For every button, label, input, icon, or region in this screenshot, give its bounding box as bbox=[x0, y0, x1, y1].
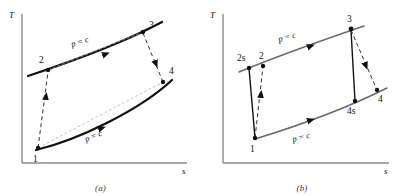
state-label-2-a: 2 bbox=[39, 55, 44, 65]
state-label-3-a: 3 bbox=[149, 20, 154, 30]
state-label-2s-b: 2s bbox=[237, 53, 246, 63]
isobar-high-pressure-b bbox=[239, 26, 364, 72]
caption-a: (a) bbox=[0, 183, 201, 193]
state-point-2-b bbox=[261, 64, 265, 68]
state-point-4-b bbox=[375, 88, 379, 92]
process-1-2s-b bbox=[249, 68, 255, 138]
flow-arrow-upper-a bbox=[90, 54, 106, 60]
state-point-3-b bbox=[349, 27, 354, 32]
caption-b: (b) bbox=[201, 183, 403, 193]
panel-b: T s bbox=[201, 0, 403, 196]
x-axis-label-b: s bbox=[384, 166, 388, 176]
state-label-4s-b: 4s bbox=[347, 106, 356, 116]
state-label-1-a: 1 bbox=[33, 154, 38, 164]
state-label-4-a: 4 bbox=[169, 66, 174, 76]
process-3-4s-b bbox=[351, 30, 355, 101]
state-point-4s-b bbox=[353, 99, 357, 103]
isobar-label-lower-b: p = c bbox=[290, 130, 311, 144]
state-label-4-b: 4 bbox=[378, 94, 383, 104]
process-3-4-b bbox=[351, 30, 377, 90]
panel-divider bbox=[201, 6, 202, 184]
state-label-3-b: 3 bbox=[347, 14, 352, 24]
process-1-2-a bbox=[38, 72, 48, 148]
panel-a: T s 1 2 bbox=[0, 0, 201, 196]
isobar-low-pressure-a bbox=[36, 80, 172, 150]
isobar-label-upper-a: p = c bbox=[69, 34, 90, 49]
state-point-2s-b bbox=[247, 66, 251, 70]
state-point-1-b bbox=[253, 136, 257, 140]
isobar-low-pressure-b bbox=[255, 88, 387, 139]
process-3-4-a bbox=[143, 33, 163, 82]
process-1-2-b bbox=[255, 66, 263, 138]
ts-diagram-a: T s 1 2 bbox=[0, 0, 201, 196]
figure-root: T s 1 2 bbox=[0, 0, 403, 196]
state-point-4-a bbox=[161, 80, 165, 84]
y-axis-label-a: T bbox=[9, 10, 15, 20]
y-axis-label-b: T bbox=[210, 10, 216, 20]
x-axis-label-a: s bbox=[182, 166, 186, 176]
state-point-1-a bbox=[36, 146, 40, 150]
state-label-1-b: 1 bbox=[250, 144, 255, 154]
isobar-label-upper-b: p = c bbox=[276, 30, 297, 45]
state-point-2-a bbox=[46, 68, 50, 72]
ts-diagram-b: T s bbox=[201, 0, 403, 196]
isobar-label-lower-a: p = c bbox=[82, 128, 104, 144]
state-point-3-a bbox=[141, 30, 145, 34]
guide-2-3-a bbox=[48, 32, 143, 70]
state-label-2-b: 2 bbox=[259, 51, 264, 61]
